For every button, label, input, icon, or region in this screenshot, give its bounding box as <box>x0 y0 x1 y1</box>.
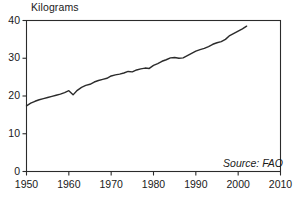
x-tick-marks <box>27 172 281 176</box>
source-annotation: Source: FAO <box>223 157 283 169</box>
x-tick-label: 2010 <box>264 178 294 190</box>
plot-border <box>27 21 281 172</box>
y-tick-label: 0 <box>0 165 20 177</box>
y-tick-label: 10 <box>0 127 20 139</box>
x-tick-label: 1960 <box>52 178 86 190</box>
y-tick-label: 40 <box>0 14 20 26</box>
y-tick-label: 30 <box>0 51 20 63</box>
chart-container: Kilograms 010203040 19501960197019801990… <box>0 0 293 200</box>
x-tick-label: 2000 <box>221 178 255 190</box>
data-series-line <box>27 26 247 106</box>
x-tick-label: 1950 <box>10 178 44 190</box>
y-tick-label: 20 <box>0 89 20 101</box>
y-tick-marks <box>23 21 27 172</box>
plot-frame <box>27 21 281 172</box>
x-tick-label: 1990 <box>179 178 213 190</box>
x-tick-label: 1980 <box>137 178 171 190</box>
plot-area <box>0 0 293 200</box>
x-tick-label: 1970 <box>94 178 128 190</box>
